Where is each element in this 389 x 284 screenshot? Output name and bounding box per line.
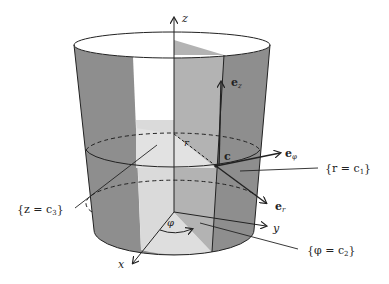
cylindrical-coordinates-diagram: z y x φ r c ez eφ er {r = c1} {z = c3} {… xyxy=(0,0,389,284)
point-c-label: c xyxy=(224,150,231,163)
y-axis-label: y xyxy=(272,222,280,235)
e-r-label: er xyxy=(275,200,286,214)
e-phi-label: eφ xyxy=(285,147,297,161)
z-axis-label: z xyxy=(181,12,188,25)
angle-label: φ xyxy=(167,217,174,228)
phi-surface-label: {φ = c2} xyxy=(307,244,356,258)
r-surface-label: {r = c1} xyxy=(325,162,371,176)
z-surface-label: {z = c3} xyxy=(17,203,64,217)
x-axis-label: x xyxy=(118,258,125,271)
top-ellipse xyxy=(74,32,270,58)
diagram-canvas: z y x φ r c ez eφ er {r = c1} {z = c3} {… xyxy=(0,0,389,284)
